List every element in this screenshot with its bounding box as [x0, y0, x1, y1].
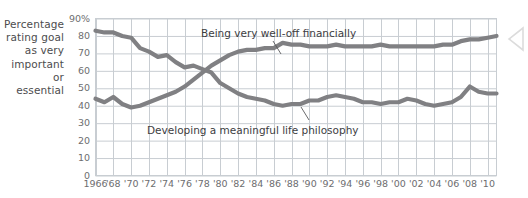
- data-lines: [96, 31, 497, 108]
- x-axis-tick: '90: [302, 178, 317, 189]
- x-axis-tick: '88: [284, 178, 299, 189]
- x-axis-tick: '86: [266, 178, 281, 189]
- x-axis-tick: '68: [106, 178, 121, 189]
- x-axis-tick: '10: [480, 178, 495, 189]
- x-axis-tick: '00: [391, 178, 406, 189]
- x-axis-tick: '04: [427, 178, 442, 189]
- x-axis-tick: '82: [231, 178, 246, 189]
- x-axis-tick: '70: [124, 178, 139, 189]
- x-axis-tick: '02: [409, 178, 424, 189]
- x-axis-tick: '74: [159, 178, 174, 189]
- leader-line-philosophy: [301, 107, 309, 120]
- x-axis-tick: '94: [338, 178, 353, 189]
- x-axis-tick: '92: [320, 178, 335, 189]
- chart-container: Percentage rating goal as very important…: [0, 0, 528, 198]
- x-axis-tick: '84: [249, 178, 264, 189]
- next-arrow-icon[interactable]: [503, 26, 527, 52]
- x-axis-tick: '08: [462, 178, 477, 189]
- x-axis-tick: 1966: [83, 178, 107, 189]
- x-axis-tick: '72: [142, 178, 157, 189]
- x-axis-tick: '76: [177, 178, 192, 189]
- data-line-philosophy: [96, 31, 497, 106]
- x-axis-tick: '78: [195, 178, 210, 189]
- annotation-philosophy: Developing a meaningful life philosophy: [147, 124, 359, 136]
- x-axis-tick: '80: [213, 178, 228, 189]
- annotation-wealth: Being very well-off financially: [201, 27, 356, 39]
- x-axis-tick: '98: [373, 178, 388, 189]
- x-axis-tick-labels: 1966'68'70'72'74'76'78'80'82'84'86'88'90…: [0, 178, 528, 194]
- x-axis-tick: '06: [445, 178, 460, 189]
- gridlines: [96, 19, 497, 177]
- x-axis-tick: '96: [355, 178, 370, 189]
- plot-border: [96, 19, 497, 176]
